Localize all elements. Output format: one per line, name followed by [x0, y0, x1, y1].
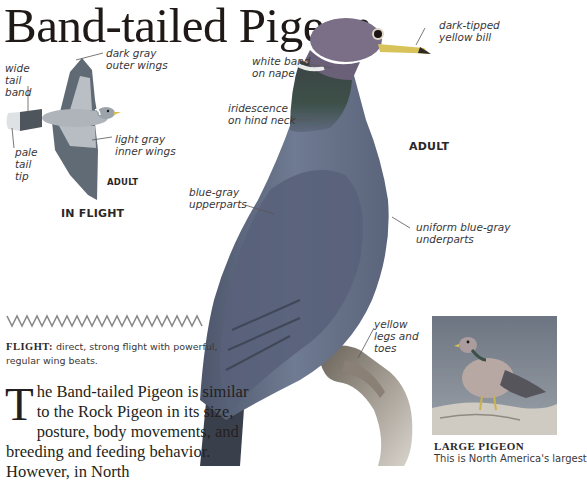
body-paragraph: he Band-tailed Pigeon is similar to the … — [6, 382, 248, 481]
flight-adult-caption: ADULT — [107, 177, 138, 187]
flight-label: FLIGHT: — [6, 341, 53, 352]
in-flight-caption: IN FLIGHT — [61, 207, 124, 220]
zigzag-flight-path-icon — [7, 316, 202, 326]
flight-tail — [20, 109, 42, 131]
main-head — [310, 18, 382, 62]
photo-caption-text: This is North America's largest — [434, 453, 587, 464]
label-dark-tipped-yellow-bill: dark-tipped yellow bill — [439, 19, 500, 43]
label-uniform-blue-gray-underparts: uniform blue-gray underparts — [416, 221, 510, 245]
label-wide-tail-band: wide tail band — [5, 62, 31, 98]
label-white-band-on-nape: white band on nape — [252, 55, 311, 79]
leader-line-underparts — [392, 217, 410, 228]
label-yellow-legs-and-toes: yellow legs and toes — [374, 318, 419, 354]
leader-line-legs — [358, 328, 374, 358]
branch — [318, 345, 412, 466]
main-adult-caption: ADULT — [409, 140, 449, 153]
label-iridescence-on-hind-neck: iridescence on hind neck — [228, 102, 296, 126]
leader-line-bill — [416, 28, 425, 45]
photo-inset — [432, 316, 557, 435]
flight-description: FLIGHT: direct, strong flight with power… — [6, 340, 228, 368]
label-pale-tail-tip: pale tail tip — [15, 146, 37, 182]
leader-line-outer-wings — [76, 53, 103, 60]
drop-cap: T — [5, 385, 34, 423]
photo-caption-title: LARGE PIGEON — [434, 440, 524, 452]
body-text: The Band-tailed Pigeon is similar to the… — [6, 382, 256, 482]
label-light-gray-inner-wings: light gray inner wings — [115, 133, 176, 157]
leader-line-tail-tip — [12, 128, 14, 148]
label-blue-gray-upperparts: blue-gray upperparts — [189, 186, 247, 210]
label-dark-gray-outer-wings: dark gray outer wings — [106, 47, 168, 71]
